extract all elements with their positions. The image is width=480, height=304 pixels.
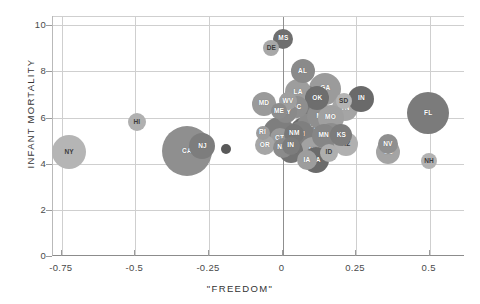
bubble-label: IN	[287, 142, 294, 149]
bubble-ks[interactable]: KS	[330, 124, 352, 146]
bubble-fl[interactable]: FL	[407, 92, 449, 134]
bubble-label: KS	[337, 132, 346, 139]
y-tick-mark	[46, 256, 52, 257]
bubble-hi[interactable]: HI	[128, 113, 146, 131]
bubble-label: AL	[298, 68, 307, 75]
x-tick-mark	[429, 250, 430, 256]
y-gridline	[53, 210, 464, 211]
bubble-ny[interactable]: NY	[52, 135, 86, 169]
y-tick-label: 0	[16, 250, 46, 261]
bubble-label: NV	[383, 141, 392, 148]
bubble-label: ID	[326, 149, 333, 156]
bubble-label: SD	[339, 98, 348, 105]
y-gridline	[53, 25, 464, 26]
bubble-ia[interactable]: IA	[297, 150, 317, 170]
y-tick-label: 6	[16, 112, 46, 123]
bubble-label: IN	[358, 95, 365, 102]
x-gridline	[356, 16, 357, 255]
x-gridline	[135, 16, 136, 255]
y-gridline	[53, 71, 464, 72]
y-tick-label: 2	[16, 204, 46, 215]
x-tick-mark	[208, 250, 209, 256]
x-tick-mark	[355, 250, 356, 256]
x-tick-label: 0.5	[399, 262, 459, 273]
y-tick-label: 8	[16, 65, 46, 76]
bubble-label: MS	[278, 35, 288, 42]
y-tick-mark	[46, 25, 52, 26]
bubble-ri[interactable]: RI	[256, 126, 270, 140]
x-tick-label: 0.25	[325, 262, 385, 273]
bubble-chart: INFANT MORTALITY "FREEDOM" CAFLTXNYPAGAI…	[0, 0, 480, 304]
bubble-de[interactable]: DE	[263, 40, 279, 56]
bubble-label: NJ	[198, 143, 207, 150]
bubble-label: NH	[424, 158, 434, 165]
bubble-label: MD	[259, 100, 270, 107]
bubble-sd[interactable]: SD	[336, 93, 352, 109]
bubble-label: MO	[325, 114, 336, 121]
bubble-me[interactable]: ME	[271, 103, 287, 119]
y-tick-mark	[46, 118, 52, 119]
x-tick-label: -0.25	[178, 262, 238, 273]
bubble-label: RI	[259, 129, 266, 136]
bubble-label: OK	[312, 95, 322, 102]
x-gridline	[430, 16, 431, 255]
y-tick-mark	[46, 71, 52, 72]
bubble-in[interactable]: IN	[348, 86, 374, 112]
bubble-label: DE	[267, 45, 276, 52]
y-tick-mark	[46, 210, 52, 211]
x-axis-title: "FREEDOM"	[0, 283, 480, 294]
bubble-label: ME	[274, 108, 284, 115]
bubble-al[interactable]: AL	[291, 59, 315, 83]
bubble-label: IA	[304, 157, 311, 164]
bubble-label: HI	[133, 119, 140, 126]
x-tick-mark	[61, 250, 62, 256]
bubble-unlabeled[interactable]	[221, 144, 231, 154]
bubble-nj[interactable]: NJ	[189, 133, 215, 159]
bubble-label: MN	[318, 132, 329, 139]
bubble-label: WV	[282, 98, 293, 105]
y-tick-mark	[46, 164, 52, 165]
bubble-label: LA	[294, 89, 303, 96]
x-tick-label: 0	[252, 262, 312, 273]
y-gridline	[53, 118, 464, 119]
bubble-label: NY	[64, 149, 73, 156]
x-tick-mark	[282, 250, 283, 256]
bubble-in[interactable]: IN	[282, 137, 300, 155]
plot-area: CAFLTXNYPAGAILNCNJLATNINMIMOWIVAUTMAMDAL…	[52, 16, 464, 256]
bubble-label: OR	[260, 142, 270, 149]
bubble-id[interactable]: ID	[320, 144, 338, 162]
bubble-label: FL	[424, 110, 432, 117]
y-gridline	[53, 164, 464, 165]
bubble-nh[interactable]: NH	[421, 153, 437, 169]
x-tick-label: -0.5	[104, 262, 164, 273]
x-tick-mark	[134, 250, 135, 256]
plot-top-frame	[53, 16, 464, 17]
y-tick-label: 4	[16, 158, 46, 169]
bubble-nv[interactable]: NV	[378, 134, 398, 154]
y-tick-label: 10	[16, 19, 46, 30]
x-tick-label: -0.75	[31, 262, 91, 273]
bubble-ok[interactable]: OK	[305, 86, 329, 110]
